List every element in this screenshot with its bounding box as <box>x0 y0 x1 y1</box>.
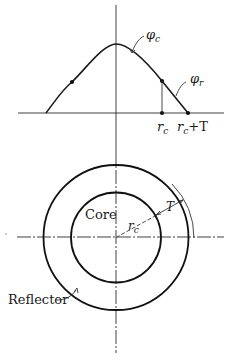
axis-point-rc-plus-t <box>186 111 190 115</box>
flux-plot: φc φr rc rc+T <box>18 5 224 150</box>
core-radius-label: rc <box>128 219 139 235</box>
phi-r-label: φr <box>190 71 204 88</box>
flux-point-left <box>70 80 74 84</box>
phi-c-leader <box>132 36 144 52</box>
phi-r-leader <box>176 82 186 96</box>
phi-c-label: φc <box>146 27 160 44</box>
flux-curve <box>46 44 188 113</box>
rc-plus-t-axis-label: rc+T <box>177 119 208 136</box>
stray-dot <box>5 233 7 235</box>
thickness-label: T <box>166 200 175 214</box>
core-label: Core <box>85 207 117 222</box>
reactor-diagram: φc φr rc rc+T rc T Core <box>0 0 233 362</box>
cross-section: rc T Core Reflector <box>5 150 224 353</box>
rc-axis-label: rc <box>157 119 168 136</box>
